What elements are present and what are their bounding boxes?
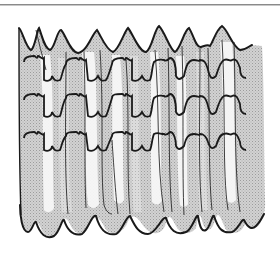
- shirred-fabric-illustration: [0, 0, 280, 253]
